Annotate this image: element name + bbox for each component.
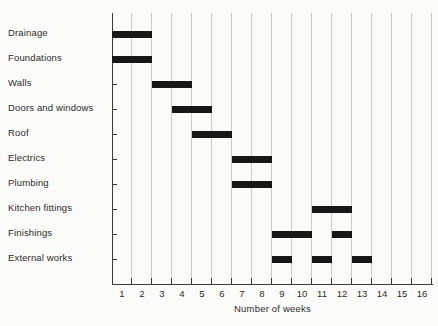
x-axis-tick	[431, 278, 432, 285]
gantt-bar	[312, 256, 332, 263]
gridline-week-7	[251, 13, 252, 285]
y-axis-line	[112, 13, 113, 285]
x-axis-tick-label: 15	[392, 288, 412, 299]
x-axis-tick-label: 14	[372, 288, 392, 299]
x-axis-tick	[251, 278, 252, 285]
gridline-week-13	[371, 13, 372, 285]
task-label: Doors and windows	[8, 102, 93, 113]
x-axis-tick-label: 13	[352, 288, 372, 299]
y-axis-tick	[112, 159, 117, 160]
x-axis-tick	[391, 278, 392, 285]
gridline-week-5	[211, 13, 212, 285]
x-axis-tick	[291, 278, 292, 285]
task-label: Walls	[8, 77, 32, 88]
gantt-bar	[272, 231, 312, 238]
y-axis-tick	[112, 259, 117, 260]
x-axis-title: Number of weeks	[112, 303, 433, 314]
x-axis-tick-label: 11	[312, 288, 332, 299]
task-label: Electrics	[8, 152, 45, 163]
y-axis-tick	[112, 134, 117, 135]
y-axis-tick	[112, 109, 117, 110]
task-label: Plumbing	[8, 177, 49, 188]
gridline-week-12	[351, 13, 352, 285]
gridline-week-9	[291, 13, 292, 285]
x-axis-tick-label: 8	[252, 288, 272, 299]
x-axis-tick	[411, 278, 412, 285]
gantt-bar	[152, 81, 192, 88]
x-axis-tick-label: 7	[232, 288, 252, 299]
gridline-week-4	[191, 13, 192, 285]
x-axis-tick	[231, 278, 232, 285]
x-axis-tick	[331, 278, 332, 285]
task-label: Roof	[8, 127, 29, 138]
x-axis-line	[112, 284, 433, 285]
gantt-bar	[172, 106, 212, 113]
gantt-bar	[232, 156, 272, 163]
x-axis-tick	[351, 278, 352, 285]
x-axis-tick-label: 12	[332, 288, 352, 299]
x-axis-tick	[371, 278, 372, 285]
x-axis-tick-label: 2	[132, 288, 152, 299]
x-axis-tick	[311, 278, 312, 285]
task-label: Kitchen fittings	[8, 202, 72, 213]
gantt-bar	[332, 231, 352, 238]
x-axis-tick-label: 3	[152, 288, 172, 299]
gridline-week-11	[331, 13, 332, 285]
task-label: Finishings	[8, 227, 52, 238]
gridline-week-10	[311, 13, 312, 285]
y-axis-tick	[112, 234, 117, 235]
gantt-bar	[112, 56, 152, 63]
gridline-week-1	[131, 13, 132, 285]
gridline-week-8	[271, 13, 272, 285]
gantt-bar	[312, 206, 352, 213]
gridline-week-6	[231, 13, 232, 285]
x-axis-tick	[271, 278, 272, 285]
y-axis-tick	[112, 184, 117, 185]
x-axis-tick	[191, 278, 192, 285]
x-axis-tick-label: 1	[112, 288, 132, 299]
x-axis-tick-label: 5	[192, 288, 212, 299]
plot-area	[112, 13, 432, 285]
gridline-week-14	[391, 13, 392, 285]
x-axis-tick-label: 6	[212, 288, 232, 299]
x-axis-tick-label: 9	[272, 288, 292, 299]
task-label: External works	[8, 252, 72, 263]
y-axis-tick	[112, 84, 117, 85]
x-axis-tick	[151, 278, 152, 285]
gridline-week-3	[171, 13, 172, 285]
x-axis-tick-label: 10	[292, 288, 312, 299]
x-axis-tick	[131, 278, 132, 285]
task-label: Drainage	[8, 27, 48, 38]
gantt-bar	[112, 31, 152, 38]
x-axis-tick-label: 4	[172, 288, 192, 299]
gantt-bar	[232, 181, 272, 188]
gridline-week-15	[411, 13, 412, 285]
gantt-bar	[272, 256, 292, 263]
gantt-chart: DrainageFoundationsWallsDoors and window…	[0, 0, 438, 326]
gantt-bar	[352, 256, 372, 263]
x-axis-tick	[211, 278, 212, 285]
gantt-bar	[192, 131, 232, 138]
gridline-week-2	[151, 13, 152, 285]
gridline-week-16	[431, 13, 432, 285]
x-axis-tick-label: 16	[412, 288, 432, 299]
task-label: Foundations	[8, 52, 62, 63]
x-axis-tick	[171, 278, 172, 285]
y-axis-tick	[112, 209, 117, 210]
